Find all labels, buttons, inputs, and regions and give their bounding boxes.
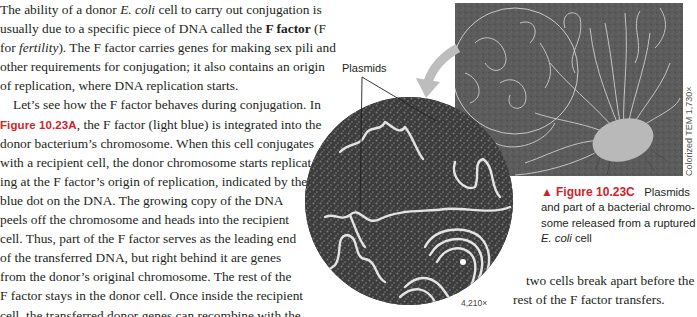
text-run: peels off the chromosome and heads into … — [0, 212, 289, 227]
text-run: F factor stays in the donor cell. Once i… — [0, 288, 303, 303]
plasmids-label: Plasmids — [342, 62, 387, 74]
inset-magnification: 4,210× — [461, 298, 487, 308]
caption-marker-icon: ▲ — [541, 185, 553, 199]
text-run: cell to carry out conjugation is — [155, 2, 322, 17]
text-line: rest of the F factor transfers. — [513, 290, 697, 309]
caption-text: some released from a ruptured — [541, 216, 697, 231]
figure-caption: ▲ Figure 10.23C Plasmids and part of a b… — [541, 185, 697, 246]
text-run: ). The F factor carries genes for making… — [58, 40, 336, 55]
text-line: F factor stays in the donor cell. Once i… — [0, 286, 305, 305]
text-run: (F — [311, 21, 326, 36]
text-run: donor bacterium’s chromosome. When this … — [0, 136, 314, 151]
italic-term: fertility — [19, 40, 58, 55]
caption-species: E. coli — [541, 232, 572, 244]
caption-last-line: E. coli cell — [541, 231, 697, 246]
text-run: of the transferred DNA, but right behind… — [0, 250, 281, 265]
text-run: with a recipient cell, the donor chromos… — [0, 155, 316, 170]
text-run: two cells break apart before the — [526, 273, 694, 288]
text-run: of replication, where DNA replication st… — [0, 78, 238, 93]
text-line: The ability of a donor E. coli cell to c… — [0, 0, 305, 19]
text-line: from the donor’s original chromosome. Th… — [0, 267, 305, 286]
text-run: rest of the F factor transfers. — [513, 292, 665, 307]
caption-text: and part of a bacterial chromo- — [541, 200, 697, 215]
text-line: blue dot on the DNA. The growing copy of… — [0, 191, 305, 210]
text-run: The ability of a donor — [0, 2, 120, 17]
text-run: Let’s see how the F factor behaves durin… — [13, 97, 321, 112]
caption-first-line: ▲ Figure 10.23C Plasmids — [541, 185, 697, 200]
caption-text: cell — [572, 232, 592, 244]
body-text-left-column: The ability of a donor E. coli cell to c… — [0, 0, 305, 317]
text-run: , the F factor (light blue) is integrate… — [77, 117, 322, 132]
text-line: peels off the chromosome and heads into … — [0, 210, 305, 229]
text-line: with a recipient cell, the donor chromos… — [0, 153, 305, 172]
caption-figure-id: Figure 10.23C — [556, 185, 635, 199]
text-run: for — [0, 40, 19, 55]
text-line: usually due to a specific piece of DNA c… — [0, 19, 305, 38]
text-line: of the transferred DNA, but right behind… — [0, 248, 305, 267]
figure-reference-link[interactable]: Figure 10.23A — [0, 119, 77, 131]
body-text-right-column: two cells break apart before therest of … — [513, 271, 697, 309]
text-line: ing at the F factor’s origin of replicat… — [0, 172, 305, 191]
text-line: two cells break apart before the — [513, 271, 697, 290]
text-line: cell, the transferred donor genes can re… — [0, 306, 305, 317]
text-run: ing at the F factor’s origin of replicat… — [0, 174, 307, 189]
text-line: Let’s see how the F factor behaves durin… — [0, 95, 305, 114]
text-line: other requirements for conjugation; it a… — [0, 57, 305, 76]
plasmid-inset-micrograph — [305, 97, 513, 305]
text-line: cell. Thus, part of the F factor serves … — [0, 229, 305, 248]
text-run: cell. Thus, part of the F factor serves … — [0, 231, 296, 246]
text-line: Figure 10.23A, the F factor (light blue)… — [0, 115, 305, 134]
text-line: for fertility). The F factor carries gen… — [0, 38, 305, 57]
key-term: F factor — [266, 21, 311, 36]
text-run: blue dot on the DNA. The growing copy of… — [0, 193, 284, 208]
text-run: usually due to a specific piece of DNA c… — [0, 21, 266, 36]
caption-text: Plasmids — [644, 186, 690, 198]
text-run: from the donor’s original chromosome. Th… — [0, 269, 291, 284]
photo-credit: Colorized TEM 1,730× — [684, 86, 694, 176]
text-line: of replication, where DNA replication st… — [0, 76, 305, 95]
text-run: cell, the transferred donor genes can re… — [0, 308, 301, 317]
text-run: other requirements for conjugation; it a… — [0, 59, 325, 74]
inset-micrograph-graphic — [305, 97, 513, 305]
italic-term: E. coli — [120, 2, 155, 17]
text-line: donor bacterium’s chromosome. When this … — [0, 134, 305, 153]
